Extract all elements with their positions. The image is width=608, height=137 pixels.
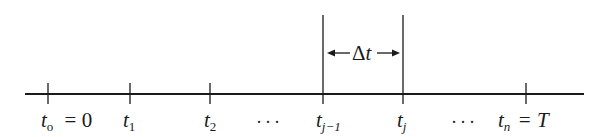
label-sub: n — [504, 119, 511, 134]
label-t0: to = 0 — [41, 110, 92, 133]
label-tn: tn = T — [498, 110, 549, 133]
label-sub: j — [403, 119, 407, 134]
label-sub: j−1 — [322, 119, 341, 134]
label-sub: 1 — [129, 119, 136, 134]
arrow-left-head-icon — [327, 50, 335, 57]
delta-var: t — [366, 41, 372, 65]
ellipsis-1: ··· — [256, 113, 283, 131]
ellipsis-2: ··· — [451, 113, 478, 131]
label-tj-minus-1: tj−1 — [316, 110, 341, 133]
arrow-right-head-icon — [392, 50, 400, 57]
label-t1: t1 — [123, 110, 135, 133]
label-tj: tj — [397, 110, 406, 133]
label-suffix: = T — [512, 108, 548, 132]
delta-t-label: Δt — [352, 43, 371, 64]
label-sub: 2 — [210, 119, 217, 134]
label-t2: t2 — [204, 110, 216, 133]
delta-symbol: Δ — [352, 41, 366, 65]
label-sub: o — [47, 119, 54, 134]
label-suffix: = 0 — [59, 108, 92, 132]
